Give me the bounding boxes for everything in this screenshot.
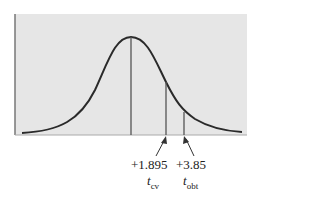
obtained-symbol: tobt — [183, 173, 198, 191]
critical-arrow — [156, 136, 167, 156]
obtained-value-label: +3.85 — [176, 157, 206, 173]
critical-symbol: tcv — [147, 173, 159, 191]
obtained-arrow — [183, 136, 194, 156]
critical-value-label: +1.895 — [131, 157, 168, 173]
